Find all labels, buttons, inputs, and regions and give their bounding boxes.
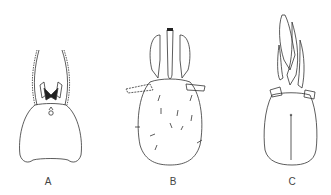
panel-c-drawing [264, 15, 317, 165]
panel-label-a: A [38, 176, 58, 187]
panel-label-c: C [282, 176, 302, 187]
anatomy-figure [0, 0, 331, 195]
panel-label-b: B [163, 176, 183, 187]
panel-b-drawing [126, 28, 205, 165]
panel-a-drawing [20, 50, 82, 162]
